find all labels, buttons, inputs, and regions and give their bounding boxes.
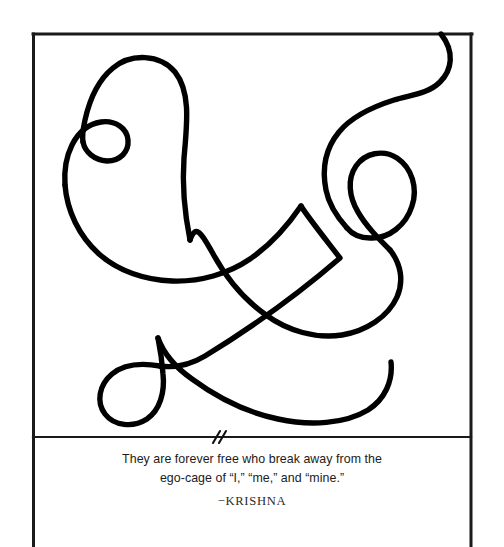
page-root: They are forever free who break away fro… bbox=[0, 0, 504, 547]
continuous-line-artwork bbox=[0, 0, 504, 547]
artwork-background bbox=[0, 0, 504, 547]
